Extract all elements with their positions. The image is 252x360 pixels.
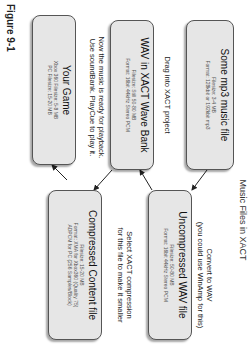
wavebank-box: WAV in XACT Wave Bank Filesize: Still 50… [110,20,154,170]
wav-line-2: Format: 16bit 44kHz Stereo PCM [163,191,169,339]
game-box: Your Game Xbox 360 Filesize: 5-8 MB PC F… [32,15,76,165]
compressed-line-3: ADPCM for PC (256 Samples/Block) [67,191,73,339]
wavebank-heading: WAV in XACT Wave Bank [139,21,150,169]
wav-box: Uncompressed WAV file Filesize: 50-80 MB… [148,190,192,340]
game-line-1: Xbox 360 Filesize: 5-8 MB [53,16,59,164]
drag-note: Drag into XACT project [163,20,172,170]
compressed-line-2: Format: XMA for Xbox360 (Quality 75) [73,191,79,339]
compressed-heading: Compressed Content file [87,191,98,339]
convert-note: Convert to WAV (you could use WinAmp for… [196,200,214,350]
wavebank-line-1: Filesize: Still 50-80 MB [131,21,137,169]
game-line-2: PC Filesize: 15-20 MB [47,16,53,164]
figure-label: Figure 9-1 [5,4,16,52]
mp3-heading: Some mp3 music file [219,21,230,169]
wav-heading: Uncompressed WAV file [177,191,188,339]
mp3-line-2: Format: 128kbit or 192kbit mp3 [205,21,211,169]
diagram-stage: Music Files in XACT Some mp3 music file … [0,0,252,360]
game-heading: Your Game [61,16,72,164]
mp3-box: Some mp3 music file Filesize: 3-4 MB For… [186,20,234,170]
compressed-box: Compressed Content file Filesize: 15-20 … [48,190,102,340]
compressed-line-1: Filesize: 15-20 MB [79,191,85,339]
wav-line-1: Filesize: 50-80 MB [169,191,175,339]
select-note: Select XACT compression for this file to… [116,200,134,350]
wavebank-line-2: Format: 16bit 44kHz Stereo PCM [125,21,131,169]
mp3-line-1: Filesize: 3-4 MB [211,21,217,169]
playback-note: Now the music is ready for playback. Use… [88,15,106,180]
